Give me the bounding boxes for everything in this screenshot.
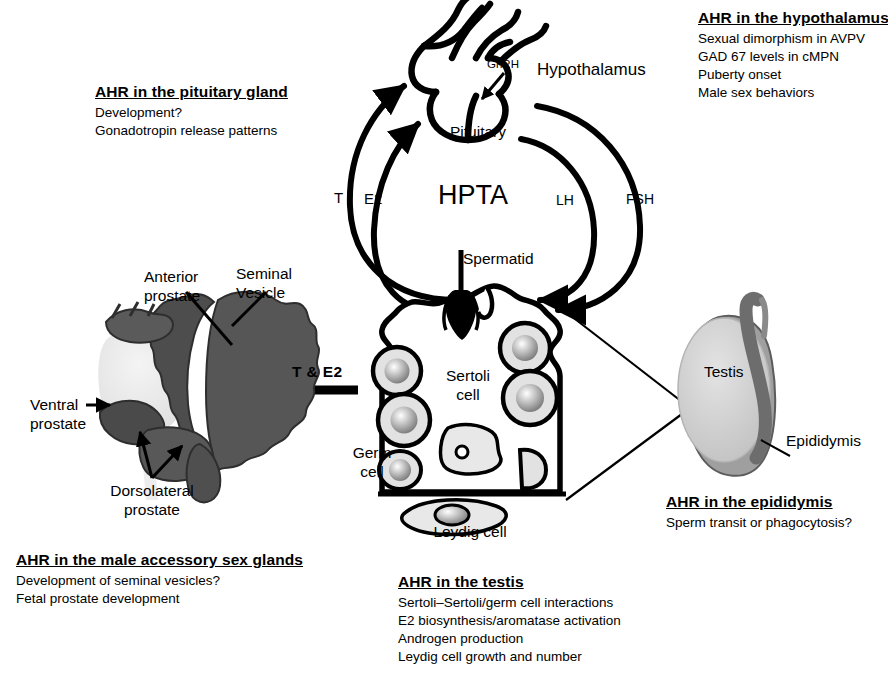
- ventral-prostate-label-line-1: Ventral: [30, 396, 86, 415]
- annotation-pituitary-heading: AHR in the pituitary gland: [95, 82, 288, 102]
- estradiol-label: E2: [364, 190, 382, 207]
- annotation-accessory-sex-glands: AHR in the male accessory sex glands Dev…: [16, 550, 303, 608]
- dorsolateral-prostate-label: Dorsolateral prostate: [110, 482, 194, 520]
- testis-organ: [678, 298, 790, 475]
- anterior-prostate-label: Anterior prostate: [144, 268, 200, 306]
- annotation-hypothalamus-line-4: Male sex behaviors: [698, 84, 888, 102]
- annotation-testis-line-3: Androgen production: [398, 630, 621, 648]
- hypothalamus-label: Hypothalamus: [537, 60, 646, 80]
- epididymis-label: Epididymis: [786, 432, 861, 450]
- testosterone-label: T: [334, 189, 343, 206]
- dorsolateral-prostate-label-line-1: Dorsolateral: [110, 482, 194, 501]
- hpta-axis-label: HPTA: [438, 180, 508, 211]
- annotation-testis-line-2: E2 biosynthesis/aromatase activation: [398, 612, 621, 630]
- annotation-hypothalamus-line-2: GAD 67 levels in cMPN: [698, 48, 888, 66]
- seminal-vesicle-label-line-2: Vesicle: [236, 284, 292, 303]
- annotation-pituitary-line-1: Development?: [95, 104, 288, 122]
- arrow-e2-feedback: [374, 124, 452, 311]
- anterior-prostate-label-line-2: prostate: [144, 287, 200, 306]
- seminal-vesicle-label-line-1: Seminal: [236, 265, 292, 284]
- annotation-hypothalamus-line-3: Puberty onset: [698, 66, 888, 84]
- spermatid-label: Spermatid: [463, 250, 534, 268]
- annotation-hypothalamus-line-1: Sexual dimorphism in AVPV: [698, 30, 888, 48]
- sertoli-cell-shape: [441, 425, 501, 474]
- testis-label: Testis: [704, 363, 744, 381]
- annotation-testis: AHR in the testis Sertoli–Sertoli/germ c…: [398, 572, 621, 666]
- annotation-accessory-line-2: Fetal prostate development: [16, 590, 303, 608]
- lh-label: LH: [556, 192, 574, 208]
- annotation-epididymis-heading: AHR in the epididymis: [666, 492, 852, 512]
- ventral-prostate-label: Ventral prostate: [30, 396, 86, 434]
- annotation-testis-line-1: Sertoli–Sertoli/germ cell interactions: [398, 594, 621, 612]
- annotation-hypothalamus: AHR in the hypothalamus Sexual dimorphis…: [698, 8, 888, 102]
- annotation-epididymis-line-1: Sperm transit or phagocytosis?: [666, 514, 852, 532]
- germ-cell-label: Germ cell: [353, 444, 392, 482]
- germ-cell-label-line-1: Germ: [353, 444, 392, 463]
- brain-outline: [412, 0, 547, 140]
- annotation-epididymis: AHR in the epididymis Sperm transit or p…: [666, 492, 852, 532]
- seminal-vesicle-label: Seminal Vesicle: [236, 265, 292, 303]
- anterior-prostate-label-line-1: Anterior: [144, 268, 200, 287]
- annotation-pituitary-gland: AHR in the pituitary gland Development? …: [95, 82, 288, 140]
- annotation-accessory-line-1: Development of seminal vesicles?: [16, 572, 303, 590]
- annotation-testis-heading: AHR in the testis: [398, 572, 621, 592]
- figure-canvas: AHR in the hypothalamus Sexual dimorphis…: [0, 0, 888, 675]
- annotation-accessory-heading: AHR in the male accessory sex glands: [16, 550, 303, 570]
- testis-magnification-leaders: [566, 312, 690, 500]
- annotation-pituitary-line-2: Gonadotropin release patterns: [95, 122, 288, 140]
- germ-cell-label-line-2: cell: [353, 463, 392, 482]
- pituitary-label: Pituitary: [450, 123, 506, 141]
- annotation-hypothalamus-heading: AHR in the hypothalamus: [698, 8, 888, 28]
- ventral-prostate-label-line-2: prostate: [30, 415, 86, 434]
- accessory-sex-glands: [86, 292, 319, 503]
- arrow-lh: [521, 139, 594, 300]
- sertoli-cell-label-line-1: Sertoli: [446, 367, 490, 386]
- annotation-testis-line-4: Leydig cell growth and number: [398, 648, 621, 666]
- t-and-e2-label: T & E2: [292, 363, 343, 381]
- sertoli-cell-label-line-2: cell: [446, 386, 490, 405]
- dorsolateral-prostate-label-line-2: prostate: [110, 501, 194, 520]
- fsh-label: FSH: [626, 191, 654, 207]
- gnrh-label: GnRH: [487, 58, 519, 70]
- sertoli-cell-label: Sertoli cell: [446, 367, 490, 405]
- leydig-cell-label: Leydig cell: [433, 523, 506, 541]
